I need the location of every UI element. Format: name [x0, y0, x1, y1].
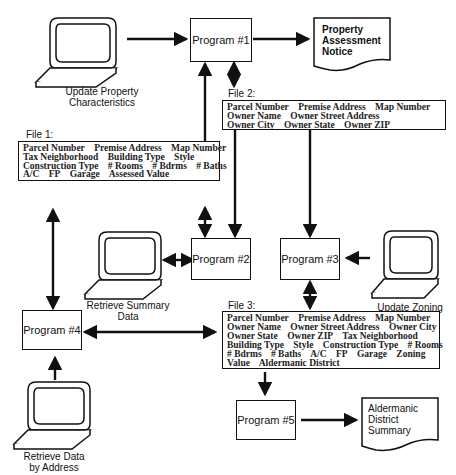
terminal-icons: [14, 18, 438, 449]
file-2-record: Parcel Number Premise Address Map Number…: [222, 100, 446, 130]
program-4-box: Program #4: [22, 310, 82, 350]
program-label: Program #4: [23, 324, 80, 336]
file-1-record: Parcel Number Premise Address Map Number…: [18, 141, 220, 181]
field: # Baths: [196, 161, 226, 171]
field-line: Value Aldermanic District: [227, 359, 435, 368]
doc-line: Notice: [322, 46, 381, 57]
field-line: A/C FP Garage Assessed Value: [23, 170, 215, 179]
field: Aldermanic District: [259, 358, 340, 368]
computer-terminal-icon: [36, 18, 116, 87]
field: Value: [227, 358, 250, 368]
program-3-box: Program #3: [280, 238, 340, 280]
field: Garage: [357, 349, 387, 359]
data-flow-diagram: Update Property Characteristics Retrieve…: [0, 0, 456, 475]
program-5-box: Program #5: [236, 400, 296, 440]
field: Garage: [70, 169, 100, 179]
program-1-box: Program #1: [190, 18, 252, 62]
field: Owner State: [284, 120, 335, 130]
doc-line: Summary: [368, 425, 418, 436]
computer-terminal-icon: [372, 231, 438, 298]
program-label: Program #5: [237, 414, 294, 426]
field-line: Owner City Owner State Owner ZIP: [227, 121, 441, 130]
terminal-label-retrieve-address: Retrieve Data by Address: [14, 451, 94, 473]
field: Assessed Value: [109, 169, 169, 179]
file-2-title: File 2:: [228, 88, 255, 99]
field: A/C: [23, 169, 39, 179]
terminal-label-retrieve-summary: Retrieve Summary Data: [78, 300, 178, 322]
field: Owner City: [227, 120, 275, 130]
file-3-title: File 3:: [228, 300, 255, 311]
doc-line: Assessment: [322, 35, 381, 46]
program-label: Program #2: [192, 253, 249, 265]
program-2-box: Program #2: [191, 238, 251, 280]
computer-terminal-icon: [85, 232, 161, 299]
file-1-title: File 1:: [26, 129, 53, 140]
terminal-label-update-property: Update Property Characteristics: [52, 86, 152, 108]
program-label: Program #3: [281, 253, 338, 265]
caption-line: Update Property: [52, 86, 152, 97]
program-label: Program #1: [192, 34, 249, 46]
document-property-assessment-notice: Property Assessment Notice: [322, 24, 381, 57]
caption-line: Data: [78, 311, 178, 322]
caption-line: Characteristics: [52, 97, 152, 108]
caption-line: by Address: [14, 462, 94, 473]
doc-line: Property: [322, 24, 381, 35]
caption-line: Retrieve Summary: [78, 300, 178, 311]
field: Zoning: [396, 349, 425, 359]
document-aldermanic-district-summary: Aldermanic District Summary: [368, 403, 418, 436]
caption-line: Retrieve Data: [14, 451, 94, 462]
field: Owner ZIP: [344, 120, 390, 130]
computer-terminal-icon: [14, 382, 90, 449]
field: Map Number: [375, 102, 430, 112]
doc-line: Aldermanic: [368, 403, 418, 414]
file-3-record: Parcel Number Premise Address Map Number…: [222, 311, 440, 369]
field: FP: [49, 169, 61, 179]
doc-line: District: [368, 414, 418, 425]
